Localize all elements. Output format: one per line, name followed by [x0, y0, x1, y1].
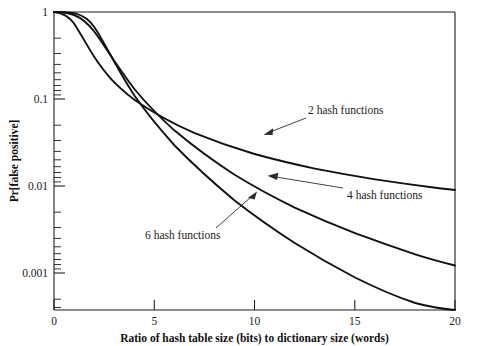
- chart-figure: 1 0.1 0.01 0.001 0 5 10 15 20 2 hash fun…: [0, 0, 482, 346]
- curve-6-hash: [54, 12, 455, 310]
- y-tick-label-0.1: 0.1: [34, 93, 49, 105]
- series-label-2-hash: 2 hash functions: [308, 104, 384, 116]
- x-tick-label-5: 5: [151, 315, 157, 327]
- x-tick-label-15: 15: [349, 315, 361, 327]
- annotation-leaders: [216, 118, 343, 228]
- x-axis-ticks: [54, 300, 455, 310]
- series-label-6-hash: 6 hash functions: [145, 229, 221, 241]
- bloom-filter-chart-svg: 1 0.1 0.01 0.001 0 5 10 15 20 2 hash fun…: [0, 0, 482, 346]
- x-axis-title: Ratio of hash table size (bits) to dicti…: [120, 332, 389, 345]
- y-axis-major-ticks: [54, 12, 65, 273]
- leader-4-hash: [276, 177, 343, 188]
- x-tick-label-0: 0: [51, 315, 57, 327]
- curves: [54, 12, 455, 310]
- plot-frame: [54, 12, 455, 310]
- curve-4-hash: [54, 12, 455, 266]
- y-axis-title: Pr[false positive]: [8, 120, 21, 203]
- y-tick-label-0.01: 0.01: [28, 180, 48, 192]
- y-axis-minor-ticks: [54, 38, 61, 307]
- series-label-4-hash: 4 hash functions: [347, 189, 423, 201]
- arrowhead-2-hash: [264, 128, 274, 135]
- y-tick-label-1: 1: [42, 6, 48, 18]
- leader-2-hash: [270, 118, 306, 132]
- y-tick-label-0.001: 0.001: [22, 267, 48, 279]
- arrowhead-4-hash: [268, 173, 279, 180]
- leader-6-hash: [216, 197, 251, 228]
- x-tick-label-10: 10: [249, 315, 261, 327]
- x-tick-label-20: 20: [449, 315, 461, 327]
- curve-2-hash: [54, 12, 455, 190]
